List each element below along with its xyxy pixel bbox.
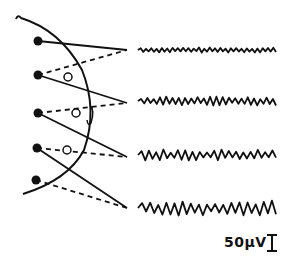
dashed-wire	[36, 180, 127, 208]
solid-wire	[37, 148, 127, 208]
reference-circle	[72, 109, 80, 117]
solid-wire	[38, 75, 127, 103]
electrode-dot	[32, 176, 41, 185]
eeg-trace-4	[138, 201, 276, 216]
reference-circle	[63, 146, 71, 154]
eeg-trace-2	[138, 97, 276, 106]
eeg-trace-3	[138, 150, 276, 161]
solid-wire	[38, 113, 127, 157]
scale-bar-icon	[267, 235, 277, 251]
electrode-dot	[34, 109, 43, 118]
dashed-wire	[38, 103, 127, 113]
electrode-dot	[33, 144, 42, 153]
electrode-dot	[34, 37, 43, 46]
solid-wire	[38, 41, 127, 50]
eeg-trace-1	[138, 48, 276, 53]
electrode-dot	[34, 71, 43, 80]
eeg-traces	[138, 48, 276, 216]
eeg-montage-diagram	[0, 0, 293, 267]
electrodes	[32, 37, 43, 185]
reference-circle	[64, 73, 72, 81]
scale-label: 50µV	[224, 234, 267, 250]
